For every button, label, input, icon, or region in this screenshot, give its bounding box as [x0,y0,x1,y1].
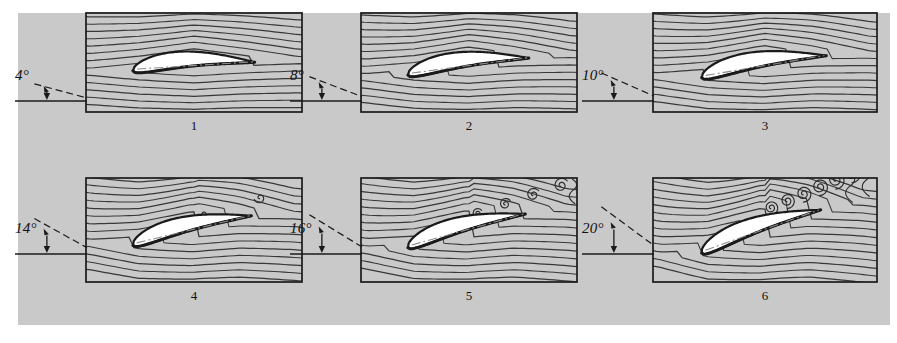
panel-number: 3 [652,118,878,134]
panel-number: 2 [360,118,578,134]
panel-number: 1 [85,118,303,134]
panel-5 [360,177,578,283]
panel-6 [652,177,878,283]
angle-of-attack-label: 4° [15,67,29,84]
panel-1 [85,12,303,113]
angle-of-attack-label: 14° [15,220,37,237]
panel-number: 6 [652,288,878,304]
panel-3 [652,12,878,113]
panel-number: 5 [360,288,578,304]
panel-number: 4 [85,288,303,304]
angle-of-attack-label: 16° [290,220,312,237]
airfoil-angle-of-attack-figure: 14°28°310°414°516°620° [0,0,897,343]
panel-2 [360,12,578,113]
angle-of-attack-label: 8° [290,67,304,84]
panel-4 [85,177,303,283]
angle-of-attack-label: 20° [582,220,604,237]
angle-of-attack-label: 10° [582,67,604,84]
